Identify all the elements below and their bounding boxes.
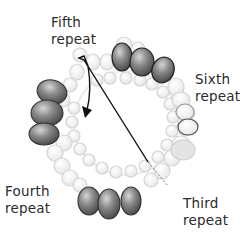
label-fifth-line1: Fifth xyxy=(51,14,96,31)
label-sixth-line1: Sixth xyxy=(195,71,240,88)
label-fourth-repeat: Fourth repeat xyxy=(5,183,50,217)
label-third-line2: repeat xyxy=(183,212,228,229)
label-sixth-line2: repeat xyxy=(195,88,240,105)
label-fourth-line2: repeat xyxy=(5,200,50,217)
label-fourth-line1: Fourth xyxy=(5,183,50,200)
label-fifth-line2: repeat xyxy=(51,31,96,48)
third-repeat-beads xyxy=(78,187,141,219)
label-sixth-repeat: Sixth repeat xyxy=(195,71,240,105)
label-third-repeat: Third repeat xyxy=(183,195,228,229)
label-third-line1: Third xyxy=(183,195,228,212)
label-fifth-repeat: Fifth repeat xyxy=(51,14,96,48)
